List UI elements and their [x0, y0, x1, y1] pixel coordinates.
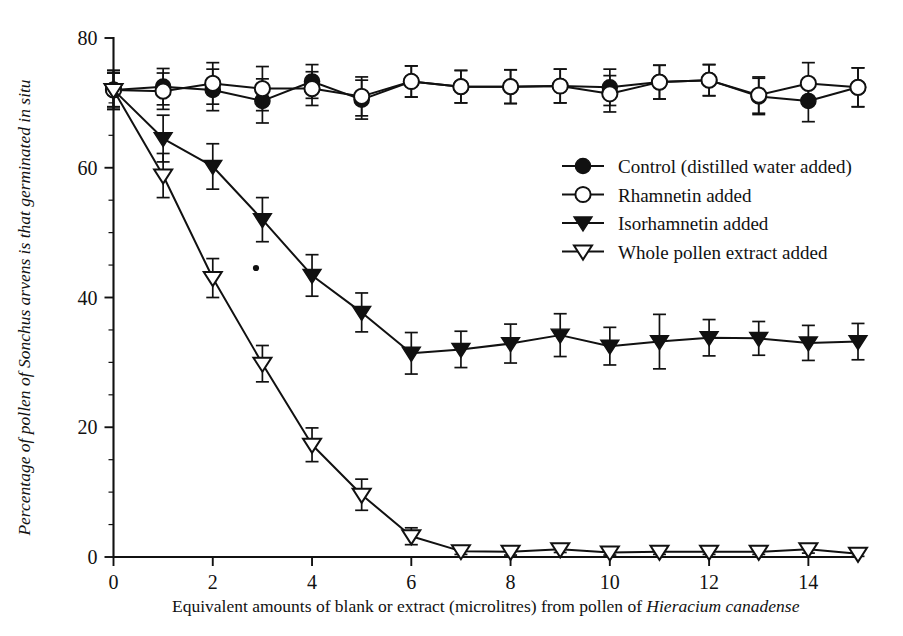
marker-open-triangle-down — [849, 548, 867, 562]
marker-open-triangle-down — [204, 272, 222, 286]
y-axis-title: Percentage of pollen of Sonchus arvens i… — [14, 79, 34, 536]
y-tick-label: 20 — [78, 416, 98, 438]
marker-filled-triangle-down — [402, 347, 420, 361]
marker-open-circle — [453, 79, 468, 94]
marker-filled-triangle-down — [154, 133, 172, 147]
marker-open-circle — [205, 76, 220, 91]
marker-open-circle — [801, 76, 816, 91]
marker-open-circle — [304, 81, 319, 96]
marker-open-circle — [503, 79, 518, 94]
markers — [106, 73, 866, 104]
legend: Control (distilled water added)Rhamnetin… — [562, 156, 852, 263]
marker-open-triangle-down — [253, 358, 271, 372]
marker-filled-triangle-down — [303, 269, 321, 283]
figure-container: 02468101214 020406080 Equivalent amounts… — [0, 0, 903, 636]
series-open-triangle-down — [105, 73, 868, 562]
marker-open-circle — [702, 73, 717, 88]
marker-filled-triangle-down — [601, 340, 619, 354]
x-tick-label: 8 — [506, 571, 516, 593]
marker-open-circle — [602, 86, 617, 101]
marker-open-circle — [652, 75, 667, 90]
y-axis-tick-labels: 020406080 — [78, 27, 98, 568]
marker-open-circle — [850, 80, 865, 95]
x-tick-label: 10 — [600, 571, 620, 593]
marker-open-circle — [354, 89, 369, 104]
x-tick-label: 14 — [798, 571, 818, 593]
marker-open-circle — [575, 187, 590, 202]
marker-open-circle — [751, 87, 766, 102]
error-bars — [107, 73, 865, 556]
legend-item: Whole pollen extract added — [562, 242, 828, 263]
marker-open-triangle-down — [574, 246, 592, 260]
marker-open-circle — [404, 74, 419, 89]
chart-canvas: 02468101214 020406080 Equivalent amounts… — [0, 0, 903, 636]
marker-filled-circle — [575, 158, 590, 173]
y-axis-ticks — [105, 38, 114, 557]
legend-label: Control (distilled water added) — [618, 156, 852, 178]
y-tick-label: 40 — [78, 287, 98, 309]
legend-label: Rhamnetin added — [618, 185, 752, 206]
x-tick-label: 4 — [307, 571, 317, 593]
marker-filled-triangle-down — [799, 337, 817, 351]
marker-open-circle — [156, 84, 171, 99]
marker-open-triangle-down — [154, 170, 172, 184]
x-tick-label: 2 — [208, 571, 218, 593]
print-speck-artifact — [253, 265, 259, 271]
marker-open-circle — [553, 78, 568, 93]
legend-item: Control (distilled water added) — [562, 156, 852, 178]
marker-open-triangle-down — [601, 546, 619, 560]
x-tick-label: 12 — [699, 571, 719, 593]
legend-item: Rhamnetin added — [562, 185, 752, 206]
marker-open-circle — [255, 81, 270, 96]
legend-item: Isorhamnetin added — [562, 213, 769, 234]
legend-label: Whole pollen extract added — [618, 242, 828, 263]
x-tick-label: 0 — [109, 571, 119, 593]
y-tick-label: 60 — [78, 157, 98, 179]
marker-filled-triangle-down — [574, 217, 592, 231]
x-tick-label: 6 — [406, 571, 416, 593]
series-polyline — [114, 80, 859, 96]
y-tick-label: 0 — [88, 546, 98, 568]
legend-label: Isorhamnetin added — [618, 213, 769, 234]
x-axis-tick-labels: 02468101214 — [109, 571, 819, 593]
x-axis-title-text: Equivalent amounts of blank or extract (… — [172, 596, 800, 616]
data-series-group — [105, 63, 868, 562]
y-tick-label: 80 — [78, 27, 98, 49]
x-axis-title: Equivalent amounts of blank or extract (… — [172, 596, 800, 616]
y-axis-title-text: Percentage of pollen of Sonchus arvens i… — [14, 79, 34, 536]
